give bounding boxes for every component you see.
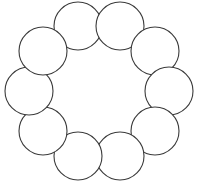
ring-circle-bottom-right (96, 132, 144, 180)
ring-of-circles-diagram (0, 0, 198, 182)
ring-circle-upper-left (19, 27, 67, 75)
